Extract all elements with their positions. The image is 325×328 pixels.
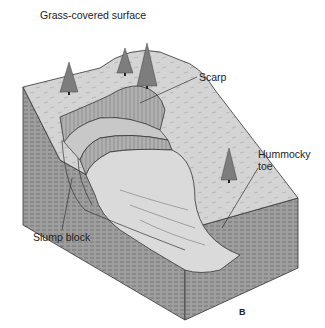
hummocky-toe-label-line1: Hummocky (258, 148, 311, 160)
figure-letter: B (239, 307, 246, 317)
slump-block-diagram (0, 0, 325, 328)
scarp-label: Scarp (199, 71, 226, 83)
grass-surface-label: Grass-covered surface (40, 9, 146, 21)
hummocky-toe-label-line2: toe (258, 160, 273, 172)
slump-block-label: Slump block (33, 231, 90, 243)
